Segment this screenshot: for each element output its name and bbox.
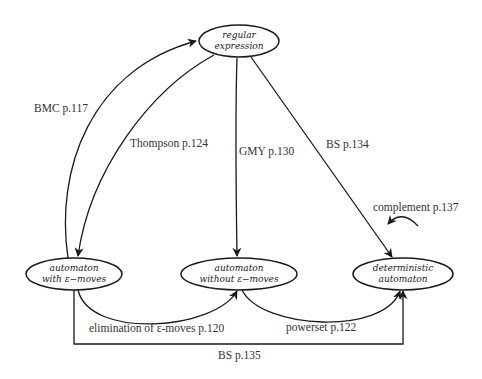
edge-complement <box>388 217 418 226</box>
node-automaton-with-eps-line1: automaton <box>50 263 99 273</box>
node-automaton-without-eps-line1: automaton <box>215 263 264 273</box>
edge-bmc <box>65 41 196 258</box>
edge-elimination <box>78 290 237 324</box>
node-automaton-without-eps[interactable]: automaton without ε−moves <box>181 258 297 290</box>
diagram-canvas: regular expression automaton with ε−move… <box>0 0 482 379</box>
node-deterministic-automaton[interactable]: deterministic automaton <box>353 258 453 290</box>
label-bs135: BS p.135 <box>218 349 261 362</box>
node-deterministic-automaton-line1: deterministic <box>373 263 434 273</box>
edge-thompson <box>78 55 214 256</box>
node-automaton-without-eps-line2: without ε−moves <box>199 274 278 284</box>
node-regular-expression-line2: expression <box>214 41 263 51</box>
edge-bs135 <box>74 290 403 344</box>
edge-powerset <box>242 290 400 322</box>
node-automaton-with-eps-line2: with ε−moves <box>42 274 107 284</box>
node-regular-expression[interactable]: regular expression <box>199 25 279 57</box>
label-thompson: Thompson p.124 <box>130 137 208 150</box>
label-elimination: elimination of ε-moves p.120 <box>89 322 224 335</box>
node-regular-expression-line1: regular <box>222 30 256 40</box>
node-deterministic-automaton-line2: automaton <box>379 274 428 284</box>
label-powerset: powerset p.122 <box>286 321 357 334</box>
label-bmc: BMC p.117 <box>34 102 88 115</box>
label-bs134: BS p.134 <box>326 138 369 151</box>
node-automaton-with-eps[interactable]: automaton with ε−moves <box>26 258 122 290</box>
label-complement: complement p.137 <box>373 201 459 214</box>
label-gmy: GMY p.130 <box>239 145 294 158</box>
edge-gmy <box>236 58 237 256</box>
edge-bs134 <box>251 57 392 257</box>
